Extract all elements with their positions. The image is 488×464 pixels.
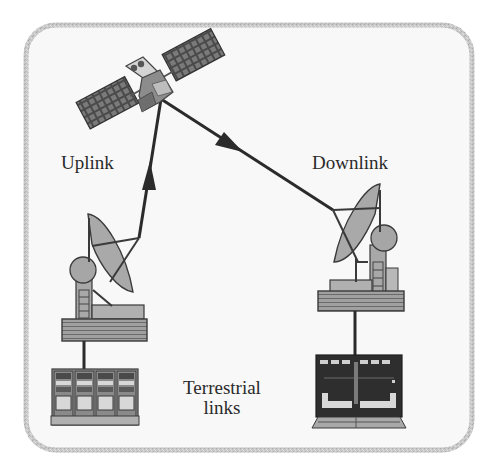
downlink-terminal-equipment-icon [312,355,406,428]
uplink-label: Uplink [61,153,114,173]
terrestrial-links-label-line2: links [160,398,284,418]
uplink-terminal-racks-icon [51,369,139,425]
downlink-label: Downlink [312,153,388,173]
satellite-link-diagram: Uplink Downlink Terrestrial links [0,0,488,464]
terrestrial-links-label-line1: Terrestrial [160,378,284,398]
terrestrial-links-label: Terrestrial links [160,378,284,418]
